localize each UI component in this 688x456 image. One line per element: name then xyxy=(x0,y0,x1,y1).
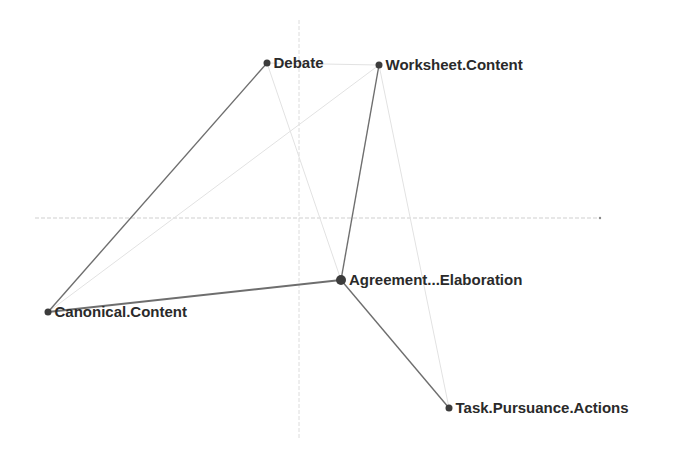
network-diagram: DebateWorksheet.ContentAgreement...Elabo… xyxy=(0,0,688,456)
node-dot-icon[interactable] xyxy=(336,275,346,285)
edge-agreement-task xyxy=(341,280,449,408)
node-dot-icon[interactable] xyxy=(376,62,383,69)
node-canonical[interactable]: Canonical.Content xyxy=(45,303,188,320)
node-agreement[interactable]: Agreement...Elaboration xyxy=(336,271,522,288)
node-dot-icon[interactable] xyxy=(45,309,52,316)
node-label: Worksheet.Content xyxy=(386,56,523,73)
node-label: Task.Pursuance.Actions xyxy=(456,399,629,416)
node-label: Debate xyxy=(274,54,324,71)
edge-worksheet-agreement xyxy=(341,65,379,280)
node-label: Agreement...Elaboration xyxy=(349,271,522,288)
edge-worksheet-canonical xyxy=(48,65,379,312)
edge-debate-canonical xyxy=(48,63,267,312)
network-plot-svg: DebateWorksheet.ContentAgreement...Elabo… xyxy=(0,0,688,456)
node-dot-icon[interactable] xyxy=(446,405,453,412)
node-worksheet[interactable]: Worksheet.Content xyxy=(376,56,523,73)
axis-end-marker xyxy=(599,217,601,219)
node-dot-icon[interactable] xyxy=(264,60,271,67)
edge-worksheet-task xyxy=(379,65,449,408)
node-debate[interactable]: Debate xyxy=(264,54,324,71)
nodes: DebateWorksheet.ContentAgreement...Elabo… xyxy=(45,54,629,416)
node-label: Canonical.Content xyxy=(55,303,188,320)
edge-debate-agreement xyxy=(267,63,341,280)
node-task[interactable]: Task.Pursuance.Actions xyxy=(446,399,629,416)
faint-edges xyxy=(48,63,449,408)
